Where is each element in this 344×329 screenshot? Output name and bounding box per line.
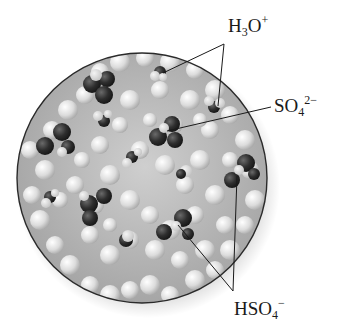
label-hso4: HSO4−	[234, 297, 285, 321]
solution-diagram	[0, 0, 344, 329]
label-h3o: H3O+	[228, 14, 268, 38]
label-so4: SO42−	[274, 94, 317, 118]
